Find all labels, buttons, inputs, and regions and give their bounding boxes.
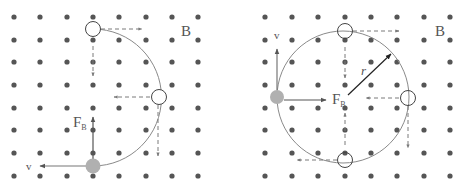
field-dot-icon <box>447 105 452 110</box>
field-dot-icon <box>262 105 267 110</box>
field-dot-icon <box>262 150 267 155</box>
field-dot-icon <box>90 105 95 110</box>
field-dot-icon <box>262 82 267 87</box>
field-dot-icon <box>447 82 452 87</box>
field-dot-icon <box>342 14 347 19</box>
field-dot-icon <box>143 127 148 132</box>
field-dot-icon <box>11 82 16 87</box>
field-dot-icon <box>315 82 320 87</box>
field-dot-icon <box>64 150 69 155</box>
field-dot-icon <box>64 105 69 110</box>
field-dot-icon <box>447 59 452 64</box>
right-force-label: FB <box>332 91 346 109</box>
field-dot-icon <box>37 105 42 110</box>
field-dot-icon <box>315 59 320 64</box>
field-dot-icon <box>394 82 399 87</box>
field-dot-icon <box>37 59 42 64</box>
field-dot-icon <box>64 173 69 178</box>
field-dot-icon <box>262 127 267 132</box>
field-dot-icon <box>315 105 320 110</box>
field-dot-icon <box>143 59 148 64</box>
field-dot-icon <box>394 150 399 155</box>
field-dot-icon <box>421 37 426 42</box>
field-dot-icon <box>394 173 399 178</box>
field-dot-icon <box>262 173 267 178</box>
field-dot-icon <box>143 14 148 19</box>
field-dot-icon <box>195 173 200 178</box>
field-dot-icon <box>289 105 294 110</box>
field-dot-icon <box>11 105 16 110</box>
field-dot-icon <box>116 127 121 132</box>
field-dot-icon <box>368 105 373 110</box>
left-force-label: FB <box>73 114 87 132</box>
field-dot-icon <box>315 14 320 19</box>
field-dot-icon <box>447 14 452 19</box>
field-dot-icon <box>195 14 200 19</box>
field-dot-icon <box>289 127 294 132</box>
field-dot-icon <box>421 173 426 178</box>
field-dot-icon <box>64 127 69 132</box>
left-field-dots <box>11 14 200 178</box>
left-top-particle-icon <box>86 22 101 37</box>
field-dot-icon <box>11 37 16 42</box>
field-dot-icon <box>315 127 320 132</box>
left-field-label: B <box>181 23 191 39</box>
field-dot-icon <box>37 127 42 132</box>
field-dot-icon <box>64 14 69 19</box>
field-dot-icon <box>315 37 320 42</box>
field-dot-icon <box>116 173 121 178</box>
field-dot-icon <box>315 150 320 155</box>
field-dot-icon <box>368 82 373 87</box>
field-dot-icon <box>447 173 452 178</box>
field-dot-icon <box>37 82 42 87</box>
field-dot-icon <box>421 127 426 132</box>
field-dot-icon <box>169 150 174 155</box>
field-dot-icon <box>64 82 69 87</box>
right-panel: B v FB r <box>270 23 445 168</box>
field-dot-icon <box>289 37 294 42</box>
right-particle-icon <box>270 90 284 104</box>
field-dot-icon <box>143 173 148 178</box>
field-dot-icon <box>394 37 399 42</box>
diagram-canvas: B v FB <box>0 0 469 187</box>
field-dot-icon <box>11 59 16 64</box>
field-dot-icon <box>368 14 373 19</box>
field-dot-icon <box>315 173 320 178</box>
field-dot-icon <box>37 14 42 19</box>
field-dot-icon <box>169 82 174 87</box>
right-velocity-label: v <box>274 29 280 41</box>
field-dot-icon <box>143 37 148 42</box>
field-dot-icon <box>262 14 267 19</box>
field-dot-icon <box>289 14 294 19</box>
field-dot-icon <box>169 173 174 178</box>
field-dot-icon <box>116 14 121 19</box>
field-dot-icon <box>11 14 16 19</box>
field-dot-icon <box>195 59 200 64</box>
right-radius-label: r <box>361 63 367 78</box>
field-dot-icon <box>90 14 95 19</box>
field-dot-icon <box>37 37 42 42</box>
field-dot-icon <box>11 150 16 155</box>
field-dot-icon <box>368 127 373 132</box>
field-dot-icon <box>169 59 174 64</box>
field-dot-icon <box>394 105 399 110</box>
field-dot-icon <box>116 150 121 155</box>
field-dot-icon <box>195 82 200 87</box>
field-dot-icon <box>447 127 452 132</box>
field-dot-icon <box>289 82 294 87</box>
field-dot-icon <box>143 105 148 110</box>
field-dot-icon <box>447 37 452 42</box>
left-panel: B v FB <box>26 22 191 174</box>
field-dot-icon <box>342 173 347 178</box>
field-dot-icon <box>368 173 373 178</box>
field-dot-icon <box>289 150 294 155</box>
field-dot-icon <box>143 150 148 155</box>
field-dot-icon <box>37 150 42 155</box>
field-dot-icon <box>447 150 452 155</box>
field-dot-icon <box>421 14 426 19</box>
right-field-dots <box>262 14 452 178</box>
right-field-label: B <box>435 23 445 39</box>
field-dot-icon <box>90 173 95 178</box>
field-dot-icon <box>195 37 200 42</box>
right-right-particle-icon <box>401 91 416 106</box>
